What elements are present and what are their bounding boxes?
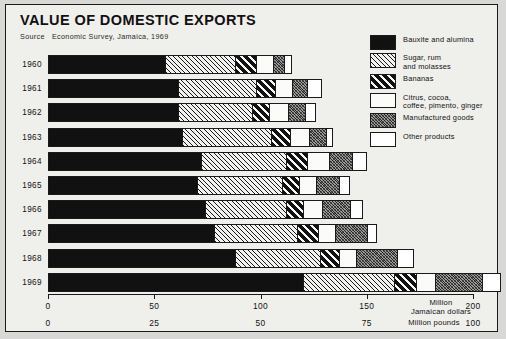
bar-segment-citrus bbox=[319, 225, 336, 242]
stacked-bar-1964 bbox=[48, 152, 367, 171]
bar-segment-citrus bbox=[291, 129, 310, 146]
stacked-bar-1965 bbox=[48, 176, 350, 195]
bar-segment-bauxite bbox=[49, 250, 236, 267]
bar-segment-bananas bbox=[298, 225, 319, 242]
bar-segment-sugar bbox=[179, 104, 253, 121]
bar-segment-citrus bbox=[300, 177, 317, 194]
bar-row: 1969 bbox=[6, 273, 499, 292]
bar-segment-manuf bbox=[336, 225, 368, 242]
x-axis-tick-label-dollars: 50 bbox=[149, 301, 159, 311]
stacked-bar-1966 bbox=[48, 200, 363, 219]
bar-row: 1965 bbox=[6, 176, 499, 195]
y-axis-label-1964: 1964 bbox=[6, 152, 42, 171]
bar-segment-other bbox=[353, 153, 367, 170]
bar-segment-manuf bbox=[274, 56, 285, 73]
x-axis-tick-label-pounds: 50 bbox=[256, 318, 266, 328]
y-axis-label-1967: 1967 bbox=[6, 224, 42, 243]
bar-segment-other bbox=[308, 80, 322, 97]
bar-segment-bauxite bbox=[49, 274, 304, 291]
bar-segment-manuf bbox=[317, 177, 340, 194]
bar-segment-manuf bbox=[436, 274, 483, 291]
stacked-bar-1963 bbox=[48, 128, 333, 147]
bar-segment-bananas bbox=[253, 104, 270, 121]
bar-segment-other bbox=[398, 250, 414, 267]
y-axis-label-1968: 1968 bbox=[6, 249, 42, 268]
x-axis-unit-pounds: Million pounds bbox=[388, 318, 480, 327]
bar-segment-bauxite bbox=[49, 177, 198, 194]
bar-row: 1967 bbox=[6, 224, 499, 243]
bar-segment-sugar bbox=[202, 153, 287, 170]
bar-segment-other bbox=[306, 104, 316, 121]
x-axis-unit-line: Million bbox=[395, 298, 487, 307]
x-axis-tick-label-pounds: 0 bbox=[46, 318, 51, 328]
x-axis-tick bbox=[261, 294, 262, 299]
bar-segment-manuf bbox=[289, 104, 306, 121]
x-axis-tick bbox=[154, 294, 155, 299]
bar-segment-bananas bbox=[287, 153, 308, 170]
bar-segment-sugar bbox=[215, 225, 298, 242]
bar-row: 1968 bbox=[6, 249, 499, 268]
bar-segment-sugar bbox=[179, 80, 258, 97]
stacked-bar-1961 bbox=[48, 79, 322, 98]
bar-segment-bananas bbox=[272, 129, 291, 146]
bar-segment-other bbox=[483, 274, 501, 291]
bar-row: 1963 bbox=[6, 128, 499, 147]
y-axis-label-1969: 1969 bbox=[6, 273, 42, 292]
bar-segment-bauxite bbox=[49, 129, 183, 146]
bar-segment-other bbox=[340, 177, 350, 194]
stacked-bar-1962 bbox=[48, 103, 316, 122]
bar-segment-citrus bbox=[270, 104, 289, 121]
bar-segment-bananas bbox=[236, 56, 257, 73]
bar-segment-bananas bbox=[395, 274, 416, 291]
bar-segment-sugar bbox=[198, 177, 283, 194]
x-axis-tick-label-pounds: 25 bbox=[149, 318, 159, 328]
bar-segment-manuf bbox=[293, 80, 308, 97]
bar-segment-other bbox=[351, 201, 363, 218]
bar-segment-sugar bbox=[166, 56, 236, 73]
bar-segment-other bbox=[285, 56, 293, 73]
chart-frame: VALUE OF DOMESTIC EXPORTS SourceEconomic… bbox=[5, 4, 498, 332]
x-axis-unit-dollars: MillionJamaican dollars bbox=[395, 298, 487, 316]
bar-row: 1964 bbox=[6, 152, 499, 171]
x-axis-tick-label-dollars: 0 bbox=[46, 301, 51, 311]
bar-segment-citrus bbox=[276, 80, 293, 97]
bar-row: 1960 bbox=[6, 55, 499, 74]
bar-segment-manuf bbox=[310, 129, 327, 146]
bar-segment-bauxite bbox=[49, 201, 206, 218]
bar-segment-other bbox=[368, 225, 378, 242]
bar-segment-bauxite bbox=[49, 80, 179, 97]
bar-segment-sugar bbox=[304, 274, 395, 291]
x-axis-unit-line: Jamaican dollars bbox=[395, 307, 487, 316]
bar-segment-citrus bbox=[417, 274, 436, 291]
bar-row: 1961 bbox=[6, 79, 499, 98]
bar-segment-citrus bbox=[257, 56, 274, 73]
bar-segment-other bbox=[327, 129, 332, 146]
bar-segment-bauxite bbox=[49, 153, 202, 170]
x-axis-tick bbox=[48, 294, 49, 299]
y-axis-label-1966: 1966 bbox=[6, 200, 42, 219]
bar-segment-bananas bbox=[283, 177, 300, 194]
stacked-bar-1968 bbox=[48, 249, 414, 268]
stacked-bar-1969 bbox=[48, 273, 501, 292]
bar-segment-citrus bbox=[304, 201, 323, 218]
bar-segment-sugar bbox=[206, 201, 287, 218]
bar-segment-manuf bbox=[357, 250, 397, 267]
y-axis-label-1965: 1965 bbox=[6, 176, 42, 195]
bar-segment-bananas bbox=[321, 250, 340, 267]
bar-segment-bauxite bbox=[49, 104, 179, 121]
x-axis-tick-label-dollars: 150 bbox=[359, 301, 374, 311]
y-axis-label-1960: 1960 bbox=[6, 55, 42, 74]
bar-row: 1962 bbox=[6, 103, 499, 122]
bar-segment-citrus bbox=[308, 153, 329, 170]
plot-area: 1960196119621963196419651966196719681969… bbox=[6, 5, 499, 333]
x-axis-tick-label-dollars: 100 bbox=[253, 301, 268, 311]
stacked-bar-1967 bbox=[48, 224, 377, 243]
bar-segment-manuf bbox=[330, 153, 353, 170]
x-axis-tick bbox=[367, 294, 368, 299]
bar-segment-sugar bbox=[183, 129, 272, 146]
bar-segment-bananas bbox=[257, 80, 276, 97]
bar-segment-manuf bbox=[323, 201, 351, 218]
stacked-bar-1960 bbox=[48, 55, 292, 74]
y-axis-label-1962: 1962 bbox=[6, 103, 42, 122]
bar-segment-bauxite bbox=[49, 225, 215, 242]
